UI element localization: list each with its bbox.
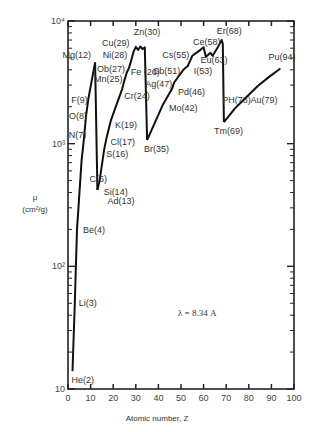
element-label: Cl(17) <box>110 137 135 147</box>
point-labels: He(2)Li(3)Be(4)C(6)N(7)O(8)F(9)Mg(12)Ad(… <box>63 26 296 385</box>
x-tick-label: 80 <box>244 393 254 403</box>
element-label: Ob(27) <box>97 64 125 74</box>
y-tick-label: 10⁴ <box>51 16 65 26</box>
element-label: Eu(63) <box>200 55 227 65</box>
wavelength-annotation: λ = 8.34 A <box>178 308 217 318</box>
element-label: Er(68) <box>217 26 242 36</box>
element-label: Br(35) <box>144 144 169 154</box>
x-tick-label: 100 <box>286 393 301 403</box>
x-tick-label: 50 <box>176 393 186 403</box>
element-label: Be(4) <box>83 225 105 235</box>
x-tick-label: 0 <box>65 393 70 403</box>
element-label: Au(79) <box>251 95 278 105</box>
x-tick-label: 20 <box>108 393 118 403</box>
element-label: Zn(30) <box>134 27 161 37</box>
element-label: Cr(24) <box>124 91 150 101</box>
element-label: Cu(29) <box>102 38 130 48</box>
element-label: N(7) <box>69 130 87 140</box>
y-tick-label: 10 <box>55 384 65 394</box>
element-label: F(9) <box>71 95 88 105</box>
y-tick-label: 10³ <box>52 139 65 149</box>
y-tick-label: 10² <box>52 261 65 271</box>
y-axis-label-mu: μ <box>33 193 38 202</box>
x-tick-label: 70 <box>221 393 231 403</box>
element-label: Cs(55) <box>162 50 189 60</box>
element-label: He(2) <box>72 375 95 385</box>
data-curve <box>73 40 281 371</box>
absorption-chart: 01020304050607080901001010²10³10⁴ He(2)L… <box>0 0 311 432</box>
x-tick-label: 90 <box>266 393 276 403</box>
element-label: I(53) <box>194 66 213 76</box>
y-axis-label-units: (cm²/g) <box>22 205 48 214</box>
element-label: Ag(47) <box>145 79 172 89</box>
element-label: Tm(69) <box>214 126 243 136</box>
element-label: Si(14) <box>104 187 128 197</box>
element-label: Mo(42) <box>169 103 198 113</box>
x-tick-label: 30 <box>131 393 141 403</box>
element-label: PH(78) <box>222 95 251 105</box>
element-label: K(19) <box>115 120 137 130</box>
element-label: Mg(12) <box>63 50 92 60</box>
element-label: Ni(28) <box>103 50 128 60</box>
x-tick-label: 10 <box>86 393 96 403</box>
element-label: Pd(46) <box>178 87 205 97</box>
x-tick-label: 60 <box>199 393 209 403</box>
element-label: Mn(25) <box>94 74 123 84</box>
element-label: Ad(13) <box>107 196 134 206</box>
element-label: S(16) <box>106 149 128 159</box>
element-label: Ce(58) <box>193 37 221 47</box>
element-label: Li(3) <box>79 298 97 308</box>
element-label: Pu(94) <box>268 52 295 62</box>
element-label: C(6) <box>90 174 108 184</box>
x-tick-label: 40 <box>153 393 163 403</box>
element-label: O(8) <box>69 111 87 121</box>
element-label: Sb(51) <box>153 66 180 76</box>
x-axis-label: Atomic number, Z <box>126 414 189 423</box>
